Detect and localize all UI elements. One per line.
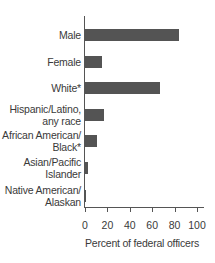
bar bbox=[85, 29, 179, 41]
bar-chart: MaleFemaleWhite*Hispanic/Latino,any race… bbox=[0, 0, 215, 263]
x-axis-line bbox=[84, 207, 204, 208]
x-tick-mark bbox=[107, 207, 108, 212]
bar bbox=[85, 56, 102, 68]
x-axis-title: Percent of federal officers bbox=[85, 237, 199, 249]
bar bbox=[85, 190, 86, 202]
bar bbox=[85, 82, 160, 94]
x-tick-label: 40 bbox=[124, 219, 136, 231]
category-label: Female bbox=[47, 56, 81, 68]
bar bbox=[85, 162, 88, 174]
category-label: Hispanic/Latino,any race bbox=[9, 103, 81, 127]
category-label: White* bbox=[51, 82, 81, 94]
category-label: Male bbox=[59, 29, 81, 41]
x-tick-mark bbox=[175, 207, 176, 212]
x-tick-mark bbox=[197, 207, 198, 212]
category-label: Asian/PacificIslander bbox=[23, 156, 81, 180]
bar bbox=[85, 135, 97, 147]
category-label: Native American/Alaskan bbox=[5, 184, 81, 208]
x-tick-label: 60 bbox=[146, 219, 158, 231]
x-tick-mark bbox=[130, 207, 131, 212]
bar bbox=[85, 109, 104, 121]
category-label: African American/Black* bbox=[2, 129, 81, 153]
x-tick-mark bbox=[152, 207, 153, 212]
x-tick-label: 80 bbox=[169, 219, 181, 231]
x-tick-label: 0 bbox=[82, 219, 88, 231]
x-tick-label: 20 bbox=[102, 219, 114, 231]
x-tick-mark bbox=[85, 207, 86, 212]
x-tick-label: 100 bbox=[188, 219, 206, 231]
